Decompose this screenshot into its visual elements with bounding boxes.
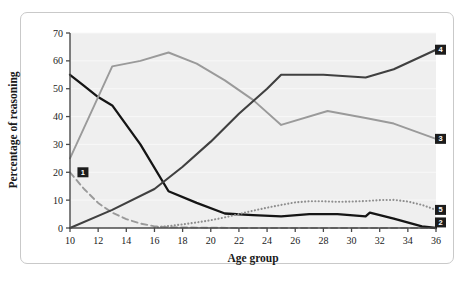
y-tick-label-30: 30 <box>53 139 63 150</box>
x-tick-label-36: 36 <box>431 235 441 246</box>
badge-label-2: 2 <box>438 218 442 227</box>
y-tick-label-20: 20 <box>53 167 63 178</box>
figure-container: 010203040506070 101214161820222426283032… <box>0 0 476 281</box>
badge-label-1: 1 <box>81 168 85 177</box>
series-badge-5: 5 <box>435 205 446 215</box>
y-tick-label-70: 70 <box>53 28 63 39</box>
series-badge-3: 3 <box>435 134 446 144</box>
series-badge-2: 2 <box>435 217 446 227</box>
y-tick-label-40: 40 <box>53 111 63 122</box>
y-tick-label-0: 0 <box>58 223 63 234</box>
plot-background-group <box>70 33 436 228</box>
y-tick-label-50: 50 <box>53 83 63 94</box>
y-tick-label-10: 10 <box>53 195 63 206</box>
plot-area-background <box>70 33 436 228</box>
x-axis-ticks: 1012141618202224262830323436 <box>65 228 441 246</box>
x-tick-label-22: 22 <box>234 235 244 246</box>
x-tick-label-30: 30 <box>347 235 357 246</box>
x-tick-label-28: 28 <box>318 235 328 246</box>
badge-label-3: 3 <box>438 134 442 143</box>
y-axis-ticks: 010203040506070 <box>53 28 70 234</box>
x-tick-label-18: 18 <box>178 235 188 246</box>
x-tick-label-24: 24 <box>262 235 272 246</box>
series-badge-4: 4 <box>435 45 446 55</box>
y-axis-title: Percentage of reasoning <box>7 71 20 188</box>
series-badge-1: 1 <box>77 167 88 177</box>
x-tick-label-16: 16 <box>149 235 159 246</box>
y-tick-label-60: 60 <box>53 55 63 66</box>
line-chart: 010203040506070 101214161820222426283032… <box>0 0 476 281</box>
x-tick-label-34: 34 <box>403 235 413 246</box>
x-tick-label-32: 32 <box>375 235 385 246</box>
x-axis-title: Age group <box>227 252 278 265</box>
x-tick-label-20: 20 <box>206 235 216 246</box>
badge-label-5: 5 <box>438 205 442 214</box>
x-tick-label-14: 14 <box>121 235 131 246</box>
x-tick-label-12: 12 <box>93 235 103 246</box>
x-tick-label-26: 26 <box>290 235 300 246</box>
x-tick-label-10: 10 <box>65 235 75 246</box>
